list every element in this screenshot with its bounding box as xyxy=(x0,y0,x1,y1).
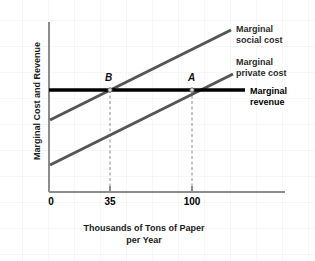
legend-label-marginal-private-cost-line2: private cost xyxy=(236,68,287,79)
x-axis-title-line1: Thousands of Tons of Paper xyxy=(49,222,239,234)
data-point-A xyxy=(190,88,194,92)
data-point-B xyxy=(108,88,112,92)
legend-label-marginal-private-cost-line1: Marginal xyxy=(236,57,287,68)
annotation-label-B: B xyxy=(105,72,112,83)
chart-figure: B A Marginal social cost Marginal privat… xyxy=(0,0,315,261)
x-axis-title: Thousands of Tons of Paper per Year xyxy=(49,222,239,246)
y-axis-title: Marginal Cost and Revenue xyxy=(32,26,42,176)
y-axis-title-wrapper: Marginal Cost and Revenue xyxy=(32,26,42,176)
legend-label-marginal-revenue-line1: Marginal xyxy=(250,86,287,97)
series-line-marginal-social-cost xyxy=(50,30,231,120)
x-tick-label-100: 100 xyxy=(177,196,207,207)
legend-label-marginal-revenue-line2: revenue xyxy=(250,97,287,108)
series-line-marginal-private-cost xyxy=(50,74,233,165)
x-tick-label-0: 0 xyxy=(36,196,66,207)
legend-label-marginal-social-cost: Marginal social cost xyxy=(236,24,283,46)
legend-label-marginal-social-cost-line1: Marginal xyxy=(236,24,283,35)
x-axis-title-line2: per Year xyxy=(49,234,239,246)
legend-label-marginal-private-cost: Marginal private cost xyxy=(236,57,287,79)
x-tick-label-35: 35 xyxy=(95,196,125,207)
legend-label-marginal-revenue: Marginal revenue xyxy=(250,86,287,108)
legend-label-marginal-social-cost-line2: social cost xyxy=(236,35,283,46)
annotation-label-A: A xyxy=(188,72,195,83)
